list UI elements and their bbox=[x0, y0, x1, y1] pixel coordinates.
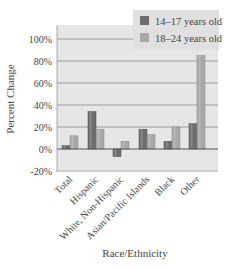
bar bbox=[139, 129, 147, 149]
legend-label-14-17: 14–17 years old bbox=[155, 16, 223, 27]
x-category-label: Black bbox=[152, 174, 176, 198]
y-tick-label: 40% bbox=[34, 100, 52, 111]
bar bbox=[197, 56, 205, 150]
x-axis-title: Race/Ethnicity bbox=[102, 247, 168, 259]
bar bbox=[172, 127, 180, 149]
legend: 14–17 years old 18–24 years old bbox=[133, 10, 223, 50]
x-category-label: Total bbox=[52, 173, 74, 195]
bar bbox=[164, 141, 172, 149]
bar bbox=[189, 124, 197, 149]
legend-swatch-14-17 bbox=[140, 16, 149, 25]
bar bbox=[88, 112, 96, 149]
y-axis-title: Percent Change bbox=[4, 64, 16, 133]
y-tick-label: 100% bbox=[29, 34, 52, 45]
bar bbox=[147, 135, 155, 149]
bar bbox=[113, 149, 121, 157]
bar bbox=[121, 141, 129, 149]
legend-label-18-24: 18–24 years old bbox=[155, 33, 223, 44]
x-category-label: Other bbox=[178, 173, 202, 197]
bar bbox=[96, 129, 104, 149]
y-tick-label: 20% bbox=[34, 122, 52, 133]
bar-chart: -20%0%20%40%60%80%100% TotalHispanicWhit… bbox=[0, 0, 229, 270]
y-tick-label: 60% bbox=[34, 78, 52, 89]
bar bbox=[70, 136, 78, 149]
x-axis-categories: TotalHispanicWhite, Non-HispanicAsian/Pa… bbox=[52, 173, 202, 242]
y-tick-label: -20% bbox=[30, 166, 52, 177]
y-axis-ticks: -20%0%20%40%60%80%100% bbox=[29, 34, 52, 177]
y-tick-label: 80% bbox=[34, 56, 52, 67]
legend-swatch-18-24 bbox=[140, 33, 149, 42]
y-tick-label: 0% bbox=[39, 144, 52, 155]
